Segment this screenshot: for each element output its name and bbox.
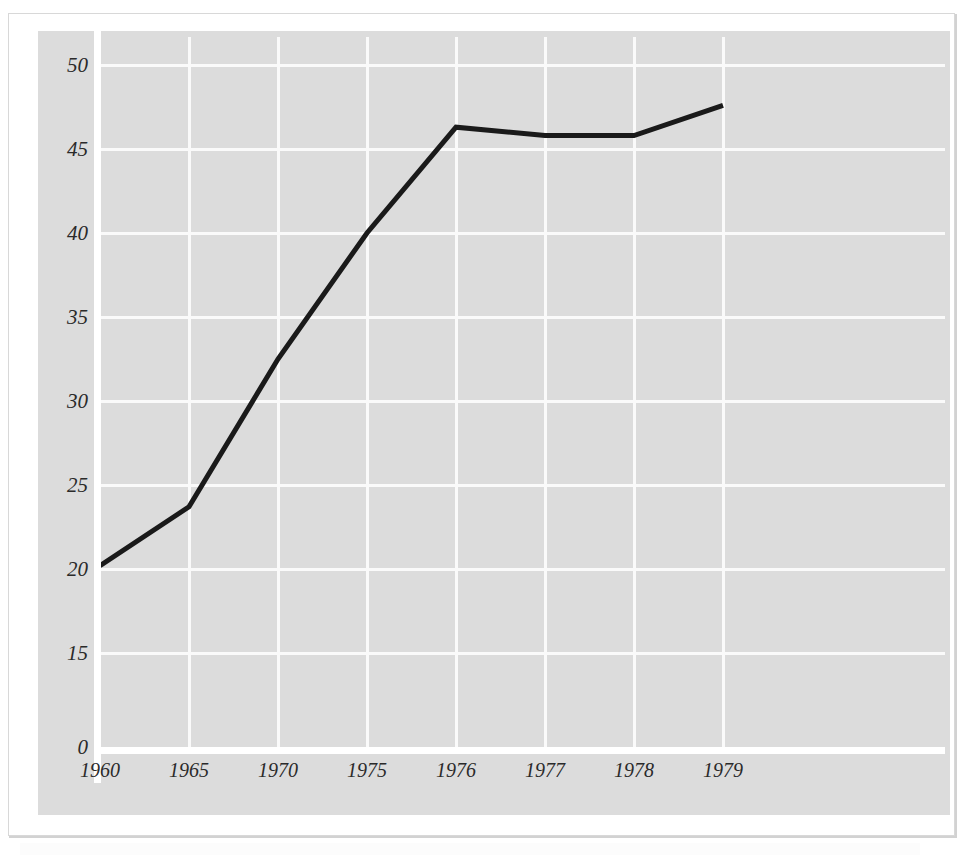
scanned-page: 50454035302520150 1960196519701975197619… bbox=[0, 0, 977, 858]
gridline-vertical bbox=[366, 37, 369, 752]
y-axis-tick-label: 45 bbox=[36, 139, 88, 160]
x-axis-line bbox=[94, 747, 945, 754]
x-axis-tick-label: 1960 bbox=[80, 760, 120, 780]
gridline-vertical bbox=[277, 37, 280, 752]
gridline-vertical bbox=[455, 37, 458, 752]
gridline-horizontal bbox=[100, 64, 945, 67]
x-axis-tick-label: 1976 bbox=[436, 760, 476, 780]
plot-area bbox=[100, 37, 945, 752]
x-axis-tick-label: 1979 bbox=[703, 760, 743, 780]
x-axis-tick-label: 1977 bbox=[525, 760, 565, 780]
y-axis-tick-label: 35 bbox=[36, 307, 88, 328]
gridline-vertical bbox=[188, 37, 191, 752]
x-axis-tick-label: 1970 bbox=[258, 760, 298, 780]
y-axis-tick-label: 50 bbox=[36, 55, 88, 76]
figure-frame-shadow-bottom bbox=[9, 836, 957, 838]
gridline-horizontal bbox=[100, 316, 945, 319]
chart-panel: 50454035302520150 1960196519701975197619… bbox=[38, 31, 950, 815]
gridline-vertical bbox=[722, 37, 725, 752]
data-series-line bbox=[100, 37, 945, 752]
gridline-horizontal bbox=[100, 400, 945, 403]
paper-texture bbox=[20, 843, 920, 855]
x-axis-tick-label: 1975 bbox=[347, 760, 387, 780]
figure-frame-shadow-right bbox=[955, 14, 957, 837]
y-axis-tick-label: 40 bbox=[36, 223, 88, 244]
y-axis-tick-label: 20 bbox=[36, 559, 88, 580]
gridline-vertical bbox=[544, 37, 547, 752]
gridline-vertical bbox=[633, 37, 636, 752]
gridline-horizontal bbox=[100, 232, 945, 235]
y-axis-tick-label: 0 bbox=[36, 737, 88, 758]
gridline-horizontal bbox=[100, 568, 945, 571]
gridline-horizontal bbox=[100, 484, 945, 487]
y-axis-tick-label: 25 bbox=[36, 475, 88, 496]
x-axis-tick-label: 1978 bbox=[614, 760, 654, 780]
y-axis-tick-label: 15 bbox=[36, 643, 88, 664]
y-axis-tick-label: 30 bbox=[36, 391, 88, 412]
gridline-horizontal bbox=[100, 148, 945, 151]
y-axis-line bbox=[94, 31, 101, 783]
x-axis-tick-label: 1965 bbox=[169, 760, 209, 780]
gridline-horizontal bbox=[100, 652, 945, 655]
